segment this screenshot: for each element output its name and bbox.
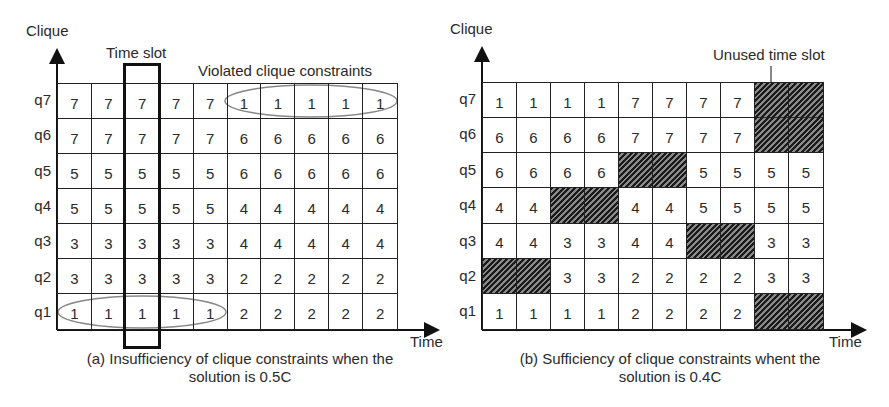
grid-cell: 6 (261, 154, 295, 189)
grid-cell: 3 (194, 259, 228, 294)
unused-cell (551, 188, 585, 223)
grid-cell: 6 (295, 119, 329, 154)
y-axis-label-a: Clique (26, 22, 69, 39)
grid-cell: 3 (551, 259, 585, 294)
grid-cell: 4 (653, 188, 687, 223)
grid-cell: 1 (517, 294, 551, 329)
caption-b-line1: (b) Sufficiency of clique constraints wh… (470, 350, 870, 368)
row-label: q2 (452, 267, 476, 284)
row-label: q2 (27, 268, 51, 285)
grid-cell: 7 (58, 119, 92, 154)
grid-cell: 7 (160, 84, 194, 119)
unused-cell (585, 188, 619, 223)
caption-a-line2: solution is 0.5C (40, 368, 440, 386)
unused-cell (687, 224, 721, 259)
grid-cell: 4 (517, 224, 551, 259)
grid-cell: 4 (483, 224, 517, 259)
grid-cell: 6 (261, 119, 295, 154)
grid-cell: 2 (721, 259, 755, 294)
row-label: q7 (27, 91, 51, 108)
grid-cell: 5 (721, 188, 755, 223)
row-label: q6 (452, 125, 476, 142)
grid-cell: 7 (653, 118, 687, 153)
grid-cell: 5 (194, 189, 228, 224)
grid-cell: 3 (160, 259, 194, 294)
grid-cell: 3 (160, 224, 194, 259)
grid-cell: 7 (92, 119, 126, 154)
schedule-grid-b: 1111777766667777666655554444555544334433… (482, 82, 824, 330)
unused-cell (755, 294, 789, 329)
grid-cell: 6 (483, 153, 517, 188)
grid-cell: 3 (585, 259, 619, 294)
grid-cell: 4 (619, 224, 653, 259)
unused-cell (755, 118, 789, 153)
grid-cell: 2 (228, 259, 262, 294)
grid-cell: 3 (92, 224, 126, 259)
grid-cell: 7 (58, 84, 92, 119)
violated-label: Violated clique constraints (198, 62, 372, 79)
grid-cell: 1 (58, 294, 92, 329)
grid-cell: 7 (160, 119, 194, 154)
grid-cell: 6 (551, 153, 585, 188)
grid-cell: 3 (789, 259, 823, 294)
grid-cell: 4 (228, 189, 262, 224)
grid-cell: 6 (363, 119, 397, 154)
grid-cell: 7 (721, 83, 755, 118)
grid-cell: 7 (619, 83, 653, 118)
y-axis-label-b: Clique (450, 20, 493, 37)
grid-cell: 7 (687, 118, 721, 153)
grid-cell: 4 (295, 224, 329, 259)
grid-cell: 4 (329, 189, 363, 224)
grid-cell: 5 (194, 154, 228, 189)
grid-cell: 3 (585, 224, 619, 259)
grid-cell: 2 (687, 294, 721, 329)
grid-cell: 6 (295, 154, 329, 189)
unused-label: Unused time slot (713, 46, 825, 63)
row-label: q5 (452, 161, 476, 178)
grid-cell: 2 (619, 259, 653, 294)
grid-cell: 6 (551, 118, 585, 153)
grid-cell: 6 (517, 118, 551, 153)
grid-cell: 5 (687, 188, 721, 223)
grid-cell: 6 (363, 154, 397, 189)
grid-cell: 4 (363, 224, 397, 259)
grid-cell: 7 (619, 118, 653, 153)
grid-cell: 2 (295, 294, 329, 329)
row-label: q1 (27, 303, 51, 320)
grid-cell: 2 (329, 259, 363, 294)
unused-cell (755, 83, 789, 118)
grid-cell: 3 (551, 224, 585, 259)
grid-cell: 5 (58, 189, 92, 224)
row-label: q5 (27, 162, 51, 179)
unused-cell (789, 83, 823, 118)
grid-cell: 6 (329, 154, 363, 189)
grid-cell: 2 (687, 259, 721, 294)
row-label: q6 (27, 126, 51, 143)
grid-cell: 3 (92, 259, 126, 294)
caption-b: (b) Sufficiency of clique constraints wh… (470, 350, 870, 386)
caption-a-line1: (a) Insufficiency of clique constraints … (40, 350, 440, 368)
grid-cell: 7 (194, 84, 228, 119)
grid-cell: 2 (721, 294, 755, 329)
grid-cell: 4 (619, 188, 653, 223)
x-axis-label-b: Time (829, 333, 862, 350)
caption-a: (a) Insufficiency of clique constraints … (40, 350, 440, 386)
grid-cell: 2 (363, 294, 397, 329)
grid-cell: 6 (228, 119, 262, 154)
grid-cell: 6 (517, 153, 551, 188)
grid-cell: 5 (160, 154, 194, 189)
unused-cell (789, 294, 823, 329)
row-label: q7 (452, 90, 476, 107)
grid-cell: 5 (755, 153, 789, 188)
time-slot-label: Time slot (106, 44, 166, 61)
grid-cell: 2 (363, 259, 397, 294)
grid-cell: 4 (261, 224, 295, 259)
grid-cell: 2 (261, 294, 295, 329)
grid-cell: 5 (789, 188, 823, 223)
grid-cell: 4 (483, 188, 517, 223)
grid-cell: 5 (58, 154, 92, 189)
grid-cell: 1 (295, 84, 329, 119)
grid-cell: 1 (483, 83, 517, 118)
grid-cell: 3 (58, 259, 92, 294)
grid-cell: 4 (261, 189, 295, 224)
